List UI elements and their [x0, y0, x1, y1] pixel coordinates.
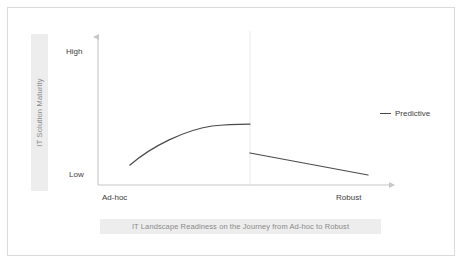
y-axis-title-label: IT Solution Maturity	[35, 78, 44, 146]
x-tick-label-robust: Robust	[336, 193, 361, 202]
predictive-rising-curve	[130, 124, 250, 165]
y-tick-label-high: High	[66, 47, 82, 56]
x-tick-label-adhoc: Ad-hoc	[102, 193, 127, 202]
figure-root: IT Solution Maturity High Low Ad-hoc Rob…	[0, 0, 466, 268]
chart-legend: Predictive	[380, 109, 430, 118]
predictive-declining-line	[250, 153, 368, 175]
y-axis-title-band: IT Solution Maturity	[31, 34, 48, 191]
caption-text: IT Landscape Readiness on the Journey fr…	[132, 222, 349, 231]
caption-band: IT Landscape Readiness on the Journey fr…	[100, 219, 381, 234]
legend-swatch-predictive	[380, 113, 391, 114]
y-tick-label-low: Low	[69, 170, 84, 179]
legend-label-predictive: Predictive	[395, 109, 430, 118]
